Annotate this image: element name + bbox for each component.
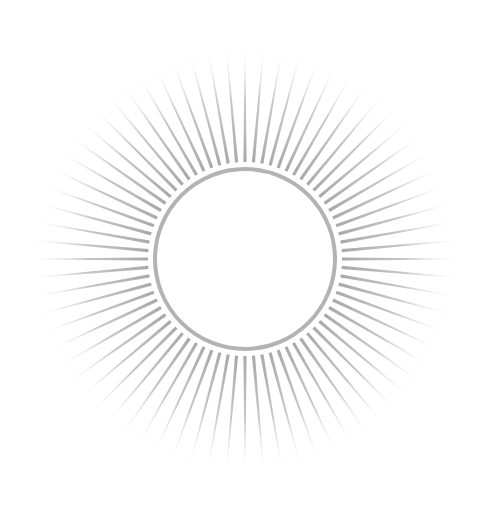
sun-ray [340,274,454,296]
sun-ray [342,257,457,260]
sun-ray [36,274,150,296]
sun-ray [341,240,456,252]
sun-ray [33,257,148,260]
sunburst-illustration [0,0,489,524]
sun-ray [243,356,246,471]
sun-ray [243,47,246,162]
sun-ray [36,222,150,244]
sun-ring [155,169,335,349]
sun-ray [226,355,238,470]
sun-ray [260,50,282,164]
sun-ray [252,355,264,470]
sun-ray [252,48,264,163]
sun-ray [226,48,238,163]
sun-ray [340,222,454,244]
sun-ray [260,354,282,468]
sun-ray [208,50,230,164]
sun-ray [208,354,230,468]
sun-ray [34,240,149,252]
sun-ray [341,266,456,278]
sun-ray [34,266,149,278]
